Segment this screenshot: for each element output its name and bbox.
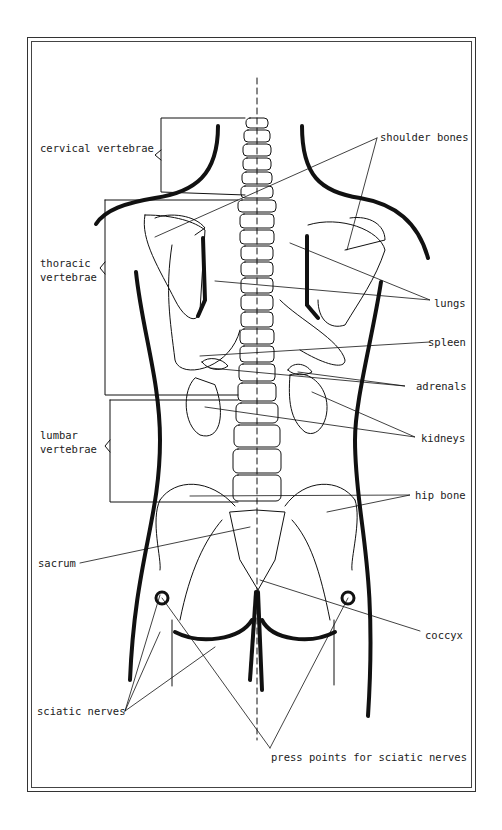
label-thoracic: thoracic <box>40 256 91 270</box>
label-sacrum: sacrum <box>38 556 76 570</box>
label-press-points: press points for sciatic nerves <box>271 750 467 764</box>
label-adrenals: adrenals <box>416 379 467 393</box>
body-outline <box>68 0 428 716</box>
label-lumbar: lumbar <box>40 428 78 442</box>
label-kidneys: kidneys <box>421 431 465 445</box>
label-thoracic-vertebrae: vertebrae <box>40 270 97 284</box>
label-lumbar-vertebrae: vertebrae <box>40 442 97 456</box>
label-hip-bone: hip bone <box>415 488 466 502</box>
label-shoulder-bones: shoulder bones <box>380 130 469 144</box>
label-cervical-vertebrae: cervical vertebrae <box>40 141 154 155</box>
label-spleen: spleen <box>428 335 466 349</box>
label-lungs: lungs <box>434 296 466 310</box>
brackets <box>100 118 245 502</box>
label-sciatic-nerves: sciatic nerves <box>37 704 126 718</box>
label-coccyx: coccyx <box>425 628 463 642</box>
